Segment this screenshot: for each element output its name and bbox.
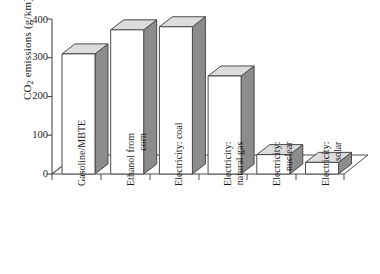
x-category-label-5: Electricity: nuclear [271, 142, 294, 186]
x-category-label-2: Ethanol from corn [125, 133, 148, 186]
x-category-label-3: Electricity: coal [173, 122, 185, 186]
co2-emissions-bar-chart: CO2 emissions (g/km) 400 300 200 100 0 [0, 0, 380, 274]
bar-side-face [95, 44, 108, 174]
x-category-label-1: Gasoline/MBTE [76, 120, 88, 186]
bar-side-face [192, 17, 205, 174]
y-axis [47, 19, 52, 174]
x-category-label-4: Electricity: natural gas [222, 142, 245, 186]
x-category-label-6: Electricity: solar [320, 142, 343, 186]
bar-series [62, 17, 352, 174]
plot-area [0, 0, 380, 274]
x-axis-ticks [52, 174, 344, 180]
